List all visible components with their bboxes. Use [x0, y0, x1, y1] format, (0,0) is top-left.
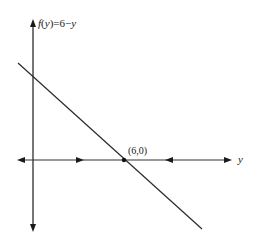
function-line	[18, 63, 202, 229]
function-label: f(y)=6−y	[38, 17, 76, 30]
horizontal-axis-inner-right-arrow-icon	[76, 157, 84, 163]
horizontal-axis-label: y	[237, 153, 243, 165]
x-intercept-point	[122, 158, 126, 162]
horizontal-axis-left-arrow-icon	[17, 157, 25, 163]
point-label: (6,0)	[128, 145, 147, 157]
horizontal-axis-right-arrow-icon	[224, 157, 232, 163]
function-label-rest: )=6−	[50, 17, 72, 30]
function-label-var2: y	[70, 17, 76, 29]
horizontal-axis-inner-left-arrow-icon	[165, 157, 173, 163]
vertical-axis-up-arrow-icon	[30, 19, 36, 27]
vertical-axis-down-arrow-icon	[30, 224, 36, 232]
function-graph: f(y)=6−y (6,0) y	[0, 0, 255, 246]
